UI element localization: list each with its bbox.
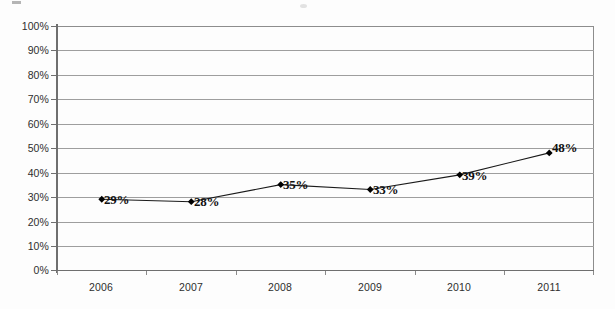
data-label: 33% (373, 182, 398, 198)
chart-screenshot: 100% 90% 80% 70% 60% 50% 40% 30% 20% 10%… (0, 0, 615, 309)
line-chart: 100% 90% 80% 70% 60% 50% 40% 30% 20% 10%… (0, 0, 615, 309)
data-label: 28% (194, 194, 219, 210)
data-series (0, 0, 615, 309)
data-label: 48% (552, 140, 577, 156)
data-label: 35% (283, 177, 308, 193)
data-label: 39% (462, 168, 487, 184)
data-label: 29% (104, 192, 129, 208)
